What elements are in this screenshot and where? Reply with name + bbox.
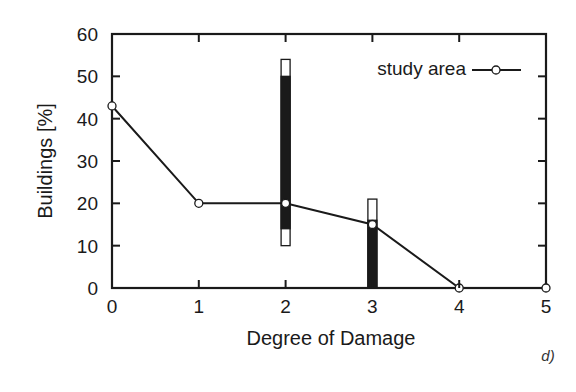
range-bar-inner bbox=[368, 220, 377, 288]
y-tick-label: 40 bbox=[77, 109, 98, 130]
x-tick-label: 5 bbox=[541, 296, 552, 317]
data-point-marker bbox=[368, 221, 376, 229]
legend-marker-icon bbox=[492, 66, 500, 74]
y-tick-label: 50 bbox=[77, 66, 98, 87]
plot-frame bbox=[112, 34, 546, 288]
x-tick-label: 3 bbox=[367, 296, 378, 317]
plot-border bbox=[112, 34, 546, 288]
data-series-line bbox=[108, 102, 550, 292]
series-line bbox=[112, 106, 546, 288]
chart: 0102030405060012345 Degree of Damage Bui… bbox=[0, 0, 576, 392]
y-tick-label: 30 bbox=[77, 151, 98, 172]
legend-label: study area bbox=[377, 58, 466, 79]
x-tick-label: 0 bbox=[107, 296, 118, 317]
y-tick-label: 60 bbox=[77, 24, 98, 45]
data-point-marker bbox=[108, 102, 116, 110]
axis-tick-labels: 0102030405060012345 bbox=[77, 24, 551, 317]
panel-label: d) bbox=[541, 347, 554, 364]
axis-ticks bbox=[112, 34, 546, 288]
x-tick-label: 4 bbox=[454, 296, 465, 317]
x-tick-label: 1 bbox=[194, 296, 205, 317]
legend: study area bbox=[377, 58, 521, 79]
x-tick-label: 2 bbox=[280, 296, 291, 317]
y-tick-label: 20 bbox=[77, 193, 98, 214]
y-tick-label: 10 bbox=[77, 236, 98, 257]
y-axis-title: Buildings [%] bbox=[34, 103, 56, 219]
range-bars bbox=[281, 59, 377, 288]
data-point-marker bbox=[282, 199, 290, 207]
data-point-marker bbox=[542, 284, 550, 292]
x-axis-title: Degree of Damage bbox=[247, 327, 416, 349]
data-point-marker bbox=[195, 199, 203, 207]
y-tick-label: 0 bbox=[87, 278, 98, 299]
